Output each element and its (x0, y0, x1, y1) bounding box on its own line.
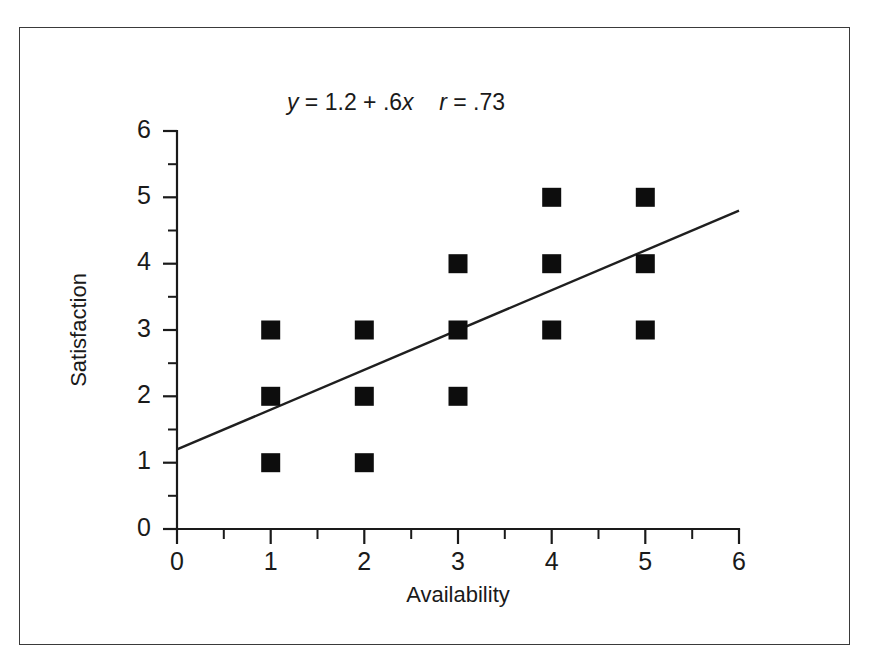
y-tick-label-3: 3 (137, 314, 151, 342)
data-point-marker (449, 321, 468, 340)
data-point-marker (636, 321, 655, 340)
figure-page: y = 1.2 + .6x r = .73 (0, 0, 871, 669)
figure-frame: y = 1.2 + .6x r = .73 (19, 27, 850, 645)
data-points (261, 188, 655, 472)
x-axis-title: Availability (406, 582, 510, 607)
data-point-marker (542, 254, 561, 273)
x-tick-label-6: 6 (732, 547, 746, 575)
annotation-equation-body: = 1.2 + .6 (298, 89, 402, 115)
x-tick-label-5: 5 (638, 547, 652, 575)
x-tick-label-3: 3 (451, 547, 465, 575)
data-point-marker (542, 188, 561, 207)
data-point-marker (261, 453, 280, 472)
data-point-marker (261, 387, 280, 406)
x-axis: 0 1 2 3 4 5 6 Availability (170, 529, 746, 607)
data-point-marker (636, 188, 655, 207)
y-tick-label-4: 4 (137, 247, 151, 275)
y-axis-title: Satisfaction (66, 273, 91, 387)
data-point-marker (449, 254, 468, 273)
data-point-marker (261, 321, 280, 340)
x-tick-label-0: 0 (170, 547, 184, 575)
x-tick-label-1: 1 (264, 547, 278, 575)
data-point-marker (355, 321, 374, 340)
y-tick-label-6: 6 (137, 115, 151, 143)
data-point-marker (542, 321, 561, 340)
y-tick-label-1: 1 (137, 446, 151, 474)
data-point-marker (636, 254, 655, 273)
annotation-r-value: = .73 (447, 89, 505, 115)
regression-annotation: y = 1.2 + .6x r = .73 (285, 89, 505, 115)
data-point-marker (355, 387, 374, 406)
y-tick-label-0: 0 (137, 513, 151, 541)
data-point-marker (449, 387, 468, 406)
x-tick-label-2: 2 (357, 547, 371, 575)
scatter-plot: y = 1.2 + .6x r = .73 (20, 28, 851, 646)
y-tick-label-2: 2 (137, 380, 151, 408)
data-point-marker (355, 453, 374, 472)
y-axis: 0 1 2 3 4 5 6 Satisfaction (66, 115, 177, 541)
y-tick-label-5: 5 (137, 181, 151, 209)
x-tick-label-4: 4 (545, 547, 559, 575)
